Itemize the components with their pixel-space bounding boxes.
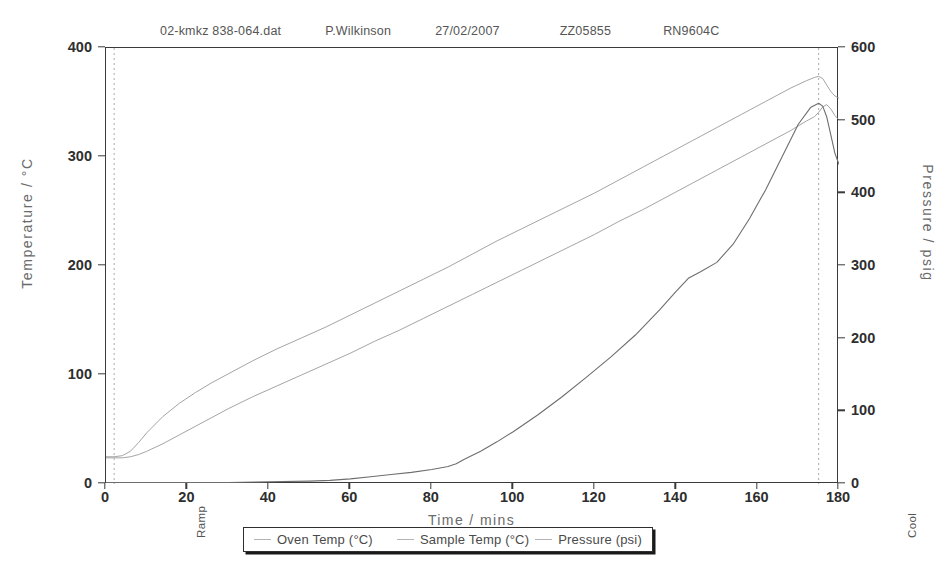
y-axis-right-tick-400: 400	[851, 184, 875, 200]
plot-curves	[106, 48, 839, 484]
y-axis-right-tick-500: 500	[851, 112, 875, 128]
x-axis-tickmark-60	[349, 483, 350, 489]
y-axis-left-title: Temperature / °C	[19, 138, 35, 308]
y-axis-right-tick-300: 300	[851, 257, 875, 273]
x-axis-tickmark-140	[674, 483, 675, 489]
x-axis-tickmark-160	[756, 483, 757, 489]
y-axis-left-tickmark-100	[98, 373, 105, 374]
y-axis-left-tick-100: 100	[68, 366, 92, 382]
x-axis-tickmark-120	[593, 483, 594, 489]
y-axis-left-tick-marks	[96, 47, 105, 483]
y-axis-left-tickmark-200	[98, 264, 105, 265]
legend-line-swatch-pressure	[535, 539, 552, 540]
y-axis-right-tickmark-0	[838, 482, 845, 483]
legend-item-sample-temp: Sample Temp (°C)	[397, 532, 529, 547]
y-axis-right-tick-200: 200	[851, 330, 875, 346]
x-axis-tick-180: 180	[826, 489, 850, 505]
plot-area: Ramp Cool	[105, 47, 838, 483]
y-axis-right-tick-100: 100	[851, 402, 875, 418]
y-axis-right-tickmark-100	[838, 410, 845, 411]
chart-legend: Oven Temp (°C) Sample Temp (°C) Pressure…	[243, 527, 653, 552]
series-line-oven-temp-c	[106, 76, 839, 456]
x-axis-tick-40: 40	[260, 489, 276, 505]
y-axis-left-tick-200: 200	[68, 257, 92, 273]
y-axis-right-tick-marks	[838, 47, 847, 483]
x-axis-tick-140: 140	[663, 489, 687, 505]
legend-line-swatch-oven-temp	[254, 539, 271, 540]
y-axis-right-tickmark-400	[838, 192, 845, 193]
y-axis-right-tick-0: 0	[851, 475, 859, 491]
x-axis-tick-60: 60	[341, 489, 357, 505]
y-axis-left-tick-labels: 0100200300400	[40, 47, 92, 483]
y-axis-right-tick-labels: 0100200300400500600	[851, 47, 903, 483]
annotation-cool-label: Cool	[906, 513, 918, 538]
x-axis-tickmark-40	[267, 483, 268, 489]
x-axis-tick-80: 80	[423, 489, 439, 505]
header-date: 27/02/2007	[435, 24, 500, 38]
x-axis-tick-160: 160	[744, 489, 768, 505]
y-axis-right-title: Pressure / psig	[920, 133, 936, 313]
y-axis-left-tick-400: 400	[68, 39, 92, 55]
x-axis-tick-120: 120	[582, 489, 606, 505]
series-line-sample-temp-c	[106, 105, 839, 458]
x-axis-tickmark-80	[430, 483, 431, 489]
legend-line-swatch-sample-temp	[397, 539, 414, 540]
y-axis-left-tick-0: 0	[84, 475, 92, 491]
x-axis-tick-0: 0	[101, 489, 109, 505]
header-filename: 02-kmkz 838-064.dat	[160, 24, 281, 38]
y-axis-right-tick-600: 600	[851, 39, 875, 55]
x-axis-tickmark-180	[837, 483, 838, 489]
x-axis-tickmark-100	[512, 483, 513, 489]
y-axis-right-tickmark-200	[838, 337, 845, 338]
y-axis-left-tickmark-400	[98, 46, 105, 47]
y-axis-left-tickmark-300	[98, 155, 105, 156]
header-author: P.Wilkinson	[325, 24, 391, 38]
y-axis-left-tick-300: 300	[68, 148, 92, 164]
legend-item-pressure: Pressure (psi)	[535, 532, 642, 547]
x-axis-tick-labels: 020406080100120140160180	[105, 489, 838, 509]
legend-label-sample-temp: Sample Temp (°C)	[420, 532, 529, 547]
y-axis-right-tickmark-300	[838, 264, 845, 265]
x-axis-tick-100: 100	[500, 489, 524, 505]
y-axis-right-tickmark-500	[838, 119, 845, 120]
x-axis-tickmark-20	[186, 483, 187, 489]
legend-label-oven-temp: Oven Temp (°C)	[277, 532, 373, 547]
legend-label-pressure: Pressure (psi)	[558, 532, 642, 547]
x-axis-tick-20: 20	[178, 489, 194, 505]
x-axis-tick-marks	[105, 483, 838, 491]
header-run-code: RN9604C	[663, 24, 719, 38]
header-batch-code: ZZ05855	[560, 24, 611, 38]
series-line-pressure-psi	[106, 103, 839, 482]
header-metadata-row: 02-kmkz 838-064.dat P.Wilkinson 27/02/20…	[105, 22, 838, 40]
legend-item-oven-temp: Oven Temp (°C)	[254, 532, 373, 547]
y-axis-right-tickmark-600	[838, 46, 845, 47]
x-axis-tickmark-0	[104, 483, 105, 489]
x-axis-title: Time / mins	[105, 512, 838, 528]
